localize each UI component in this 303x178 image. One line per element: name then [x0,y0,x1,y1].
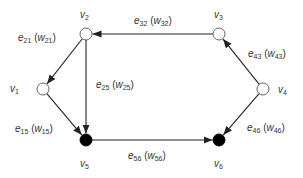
edge-subscript: 46 [253,127,261,134]
edge-weight: w [147,150,154,161]
node-v4 [257,83,269,95]
edge-weight: w [266,122,273,133]
node-label-v6: v6 [214,159,223,170]
edge-label-e15: e15 (w15) [15,124,53,135]
weight-subscript: 32 [161,20,169,27]
node-label-v1: v1 [10,84,19,95]
weight-subscript: 15 [42,128,50,135]
node-subscript: 2 [85,14,89,21]
edge-subscript: 15 [21,128,29,135]
edge-label-e56: e56 (w56) [128,151,166,162]
node-v2 [80,28,92,40]
weight-subscript: 46 [274,127,282,134]
node-subscript: 6 [219,163,223,170]
edges-layer [47,34,259,140]
weight-subscript: 43 [275,53,283,60]
edge-e21 [47,39,82,84]
node-label-v5: v5 [80,159,89,170]
edge-label-e32: e32 (w32) [134,16,172,27]
edge-weight: w [37,32,44,43]
edge-weight: w [153,15,160,26]
node-label-v2: v2 [80,10,89,21]
node-label-v4: v4 [278,85,287,96]
node-label-v3: v3 [214,10,223,21]
edge-subscript: 56 [134,155,142,162]
edge-e43 [223,39,259,84]
weight-subscript: 56 [155,155,163,162]
weight-subscript: 21 [45,37,53,44]
node-subscript: 3 [219,14,223,21]
weight-subscript: 25 [123,84,131,91]
edge-subscript: 21 [24,37,32,44]
node-v6 [213,134,225,146]
node-subscript: 5 [85,163,89,170]
nodes-layer [37,28,269,146]
edge-label-e43: e43 (w43) [248,49,286,60]
edge-label-e21: e21 (w21) [18,33,56,44]
edge-weight: w [34,123,41,134]
edge-subscript: 32 [140,20,148,27]
node-v1 [37,83,49,95]
edge-label-e46: e46 (w46) [247,123,285,134]
node-v3 [213,28,225,40]
edge-weight: w [115,79,122,90]
node-v5 [80,134,92,146]
edge-weight: w [267,48,274,59]
node-subscript: 1 [15,88,19,95]
node-subscript: 4 [283,89,287,96]
edge-subscript: 43 [254,53,262,60]
edge-label-e25: e25 (w25) [96,80,134,91]
edge-subscript: 25 [102,84,110,91]
